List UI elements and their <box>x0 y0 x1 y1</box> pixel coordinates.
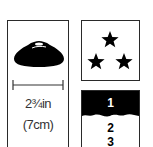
level-1: 1 <box>82 97 139 110</box>
cone-icon <box>12 39 66 69</box>
rating-panel <box>81 20 140 81</box>
three-stars-icon <box>82 21 139 80</box>
dimension-line-icon <box>12 79 64 91</box>
size-imperial-label: 2¾in <box>8 96 68 111</box>
size-panel: 2¾in (7cm) <box>7 20 69 147</box>
level-2: 2 <box>82 122 139 135</box>
level-3: 3 <box>82 136 139 147</box>
size-metric-label: (7cm) <box>8 117 68 132</box>
level-panel: 1 2 3 <box>81 90 140 147</box>
